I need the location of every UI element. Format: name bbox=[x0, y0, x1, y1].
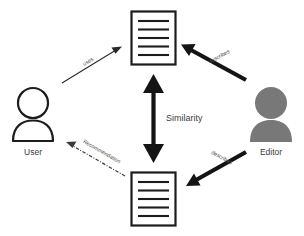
person-outline-body bbox=[13, 121, 53, 142]
edge-label-recommendation: Recommendation bbox=[82, 138, 122, 164]
diagram-canvas: User Editor top document (thin) ========… bbox=[0, 0, 304, 236]
arrowhead-down-icon bbox=[143, 144, 164, 163]
person-outline-icon bbox=[18, 88, 48, 118]
node-user[interactable]: User bbox=[13, 88, 53, 157]
edge-document-recommendation-user[interactable]: Recommendation bbox=[66, 138, 125, 176]
node-editor[interactable]: Editor bbox=[250, 87, 292, 157]
arrowhead-icon bbox=[112, 47, 123, 54]
arrowhead-up-icon bbox=[143, 74, 164, 93]
node-document-bottom[interactable] bbox=[132, 173, 176, 226]
node-label-editor: Editor bbox=[260, 147, 282, 157]
edge-editor-describes-top-document[interactable]: describes bbox=[181, 44, 246, 80]
arrowhead-icon bbox=[66, 142, 77, 149]
diagram-svg: User Editor top document (thin) ========… bbox=[0, 0, 304, 236]
edge-editor-describes-bottom-document[interactable]: describes bbox=[186, 149, 246, 186]
edge-label-similarity: Similarity bbox=[166, 113, 203, 123]
person-filled-icon bbox=[255, 87, 287, 119]
node-document-top[interactable] bbox=[132, 12, 176, 65]
node-label-user: User bbox=[24, 147, 42, 157]
edge-user-uses-document[interactable]: uses bbox=[62, 47, 122, 84]
edge-line bbox=[62, 50, 116, 83]
edge-similarity-between-documents[interactable]: Similarity bbox=[143, 74, 203, 163]
edge-label-describes-top: describes bbox=[207, 48, 230, 65]
edge-label-uses: uses bbox=[82, 56, 95, 67]
person-filled-body bbox=[250, 120, 292, 142]
